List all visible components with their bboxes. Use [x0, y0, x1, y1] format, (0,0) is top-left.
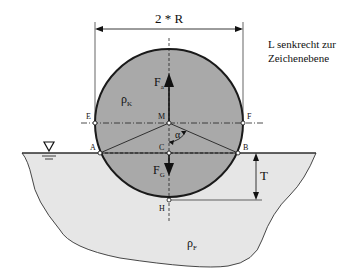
point-H	[167, 198, 171, 202]
dimension-label: 2 * R	[155, 11, 184, 26]
label-A: A	[90, 143, 96, 152]
point-A	[98, 151, 102, 155]
point-E	[93, 121, 97, 125]
label-H: H	[159, 204, 165, 213]
point-M	[167, 121, 171, 125]
angle-label: α	[175, 129, 181, 140]
label-F: F	[247, 112, 252, 121]
label-C: C	[159, 143, 164, 152]
point-F	[241, 121, 245, 125]
label-E: E	[86, 112, 91, 121]
note-line-2: Zeichenebene	[268, 52, 329, 64]
note-line-1: L senkrecht zur	[268, 38, 336, 50]
label-B: B	[243, 143, 248, 152]
point-C	[167, 151, 171, 155]
floating-cylinder-diagram: 2 * R L senkrecht zur Zeichenebene α Fa …	[0, 0, 350, 280]
point-B	[236, 151, 240, 155]
label-M: M	[158, 112, 165, 121]
depth-label: T	[260, 168, 268, 183]
